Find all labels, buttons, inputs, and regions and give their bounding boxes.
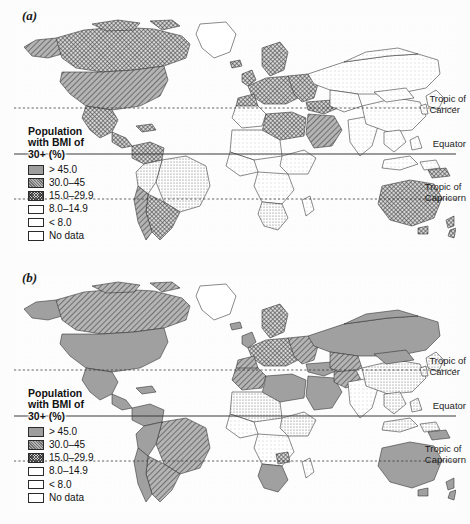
legend-row: < 8.0 — [28, 478, 140, 491]
lat-label-cancer-b: Tropic of Cancer — [429, 355, 466, 377]
legend-row: No data — [28, 491, 140, 504]
legend-row: 15.0–29.9 — [28, 190, 140, 203]
legend-swatch-gt45-icon — [28, 427, 44, 437]
legend-row: 15.0–29.9 — [28, 452, 140, 465]
legend-panel-b: Population with BMI of 30+ (%) > 45.0 30… — [28, 388, 140, 504]
legend-row: 8.0–14.9 — [28, 465, 140, 478]
legend-swatch-8-14-icon — [28, 205, 44, 215]
legend-row: > 45.0 — [28, 163, 140, 176]
legend-row: 30.0–45 — [28, 176, 140, 189]
lat-label-equator-b: Equator — [433, 400, 466, 411]
legend-label: 15.0–29.9 — [49, 452, 94, 464]
legend-title-b: Population with BMI of 30+ (%) — [28, 388, 140, 422]
legend-label: 8.0–14.9 — [49, 465, 88, 477]
legend-panel-a: Population with BMI of 30+ (%) > 45.0 30… — [28, 126, 140, 242]
legend-swatch-nodata-icon — [28, 231, 44, 241]
legend-swatch-30-45-icon — [28, 178, 44, 188]
legend-label: < 8.0 — [49, 217, 72, 229]
legend-row: < 8.0 — [28, 216, 140, 229]
legend-swatch-15-29-icon — [28, 453, 44, 463]
panel-a-label: (a) — [22, 8, 37, 24]
panel-b: (b) — [0, 262, 470, 524]
panel-a: (a) — [0, 0, 470, 262]
legend-row: No data — [28, 229, 140, 242]
legend-label: No data — [49, 492, 84, 504]
legend-swatch-gt45-icon — [28, 165, 44, 175]
legend-swatch-15-29-icon — [28, 191, 44, 201]
legend-swatch-lt8-icon — [28, 218, 44, 228]
legend-label: 8.0–14.9 — [49, 203, 88, 215]
legend-swatch-8-14-icon — [28, 467, 44, 477]
figure-two-panel-world-maps: (a) — [0, 0, 470, 524]
legend-swatch-nodata-icon — [28, 493, 44, 503]
lat-label-capricorn-b: Tropic of Capricorn — [425, 443, 466, 465]
legend-label: > 45.0 — [49, 426, 77, 438]
legend-row: 30.0–45 — [28, 438, 140, 451]
lat-label-cancer-a: Tropic of Cancer — [429, 93, 466, 115]
legend-swatch-lt8-icon — [28, 480, 44, 490]
legend-label: > 45.0 — [49, 164, 77, 176]
legend-label: 15.0–29.9 — [49, 190, 94, 202]
legend-label: No data — [49, 230, 84, 242]
legend-row: > 45.0 — [28, 425, 140, 438]
legend-title-a: Population with BMI of 30+ (%) — [28, 126, 140, 160]
legend-swatch-30-45-icon — [28, 440, 44, 450]
lat-label-capricorn-a: Tropic of Capricorn — [425, 181, 466, 203]
panel-b-label: (b) — [22, 270, 37, 286]
lat-label-equator-a: Equator — [433, 138, 466, 149]
legend-label: 30.0–45 — [49, 439, 85, 451]
legend-label: 30.0–45 — [49, 177, 85, 189]
legend-label: < 8.0 — [49, 479, 72, 491]
legend-row: 8.0–14.9 — [28, 203, 140, 216]
